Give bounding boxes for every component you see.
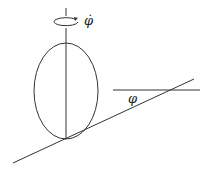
- rotation-arrow-icon: [54, 18, 78, 26]
- angular-velocity-label: φ̇: [84, 14, 93, 27]
- arrowhead-icon: [74, 17, 78, 21]
- diagram-canvas: [0, 0, 209, 174]
- inclined-plane: [13, 79, 194, 163]
- incline-angle-label: φ: [128, 92, 137, 105]
